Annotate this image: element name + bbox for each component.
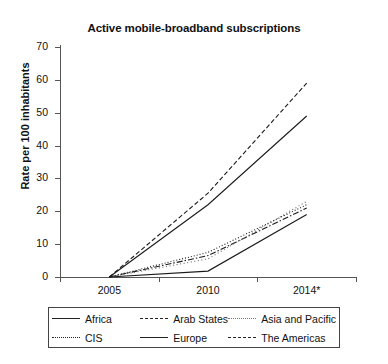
x-tick (60, 277, 61, 282)
legend-item[interactable]: Arab States (140, 313, 228, 325)
legend-item-label: Europe (173, 332, 207, 344)
series-line-arab-states (109, 208, 306, 277)
x-tick-label: 2010 (158, 284, 258, 296)
y-tick-label: 70 (8, 40, 48, 52)
line-dashdot-icon (140, 318, 168, 319)
y-tick (55, 178, 60, 179)
legend-item-label: Arab States (173, 313, 228, 325)
x-axis-line (60, 277, 357, 278)
legend-item[interactable]: CIS (52, 332, 140, 344)
legend-item[interactable]: The Americas (228, 332, 336, 344)
legend-item-label: The Americas (261, 332, 325, 344)
y-tick-label: 60 (8, 73, 48, 85)
series-line-the-americas (109, 83, 306, 277)
y-axis-line (60, 45, 61, 279)
chart-title: Active mobile-broadband subscriptions (0, 22, 388, 34)
x-tick-label: 2014* (257, 284, 357, 296)
legend-item-label: CIS (85, 332, 103, 344)
x-tick (356, 277, 357, 282)
series-line-asia-and-pacific (109, 201, 306, 277)
chart-container: Active mobile-broadband subscriptions Ra… (0, 0, 388, 364)
legend-item-label: Africa (85, 313, 112, 325)
series-line-europe (109, 116, 306, 277)
series-line-cis (109, 205, 306, 277)
line-dotted-icon (52, 337, 80, 338)
y-tick (55, 47, 60, 48)
legend-item[interactable]: Asia and Pacific (228, 313, 336, 325)
y-tick-label: 30 (8, 171, 48, 183)
line-solid-icon (52, 318, 80, 319)
legend-item[interactable]: Africa (52, 313, 140, 325)
x-tick (257, 277, 258, 282)
x-tick (159, 277, 160, 282)
legend-item[interactable]: Europe (140, 332, 228, 344)
y-tick (55, 211, 60, 212)
legend-item-label: Asia and Pacific (261, 313, 336, 325)
y-tick-label: 10 (8, 237, 48, 249)
series-line-africa (109, 215, 306, 277)
line-fine-dotted-icon (228, 318, 256, 319)
line-dashed-icon (228, 337, 256, 338)
y-tick-label: 50 (8, 106, 48, 118)
x-tick-label: 2005 (59, 284, 159, 296)
line-solid-icon (140, 337, 168, 338)
y-tick-label: 0 (8, 270, 48, 282)
chart-legend: AfricaArab StatesAsia and PacificCISEuro… (48, 307, 340, 348)
y-tick (55, 80, 60, 81)
y-tick (55, 244, 60, 245)
y-axis-title: Rate per 100 inhabitants (19, 41, 31, 211)
y-tick-label: 40 (8, 139, 48, 151)
y-tick (55, 113, 60, 114)
y-tick-label: 20 (8, 204, 48, 216)
y-tick (55, 146, 60, 147)
